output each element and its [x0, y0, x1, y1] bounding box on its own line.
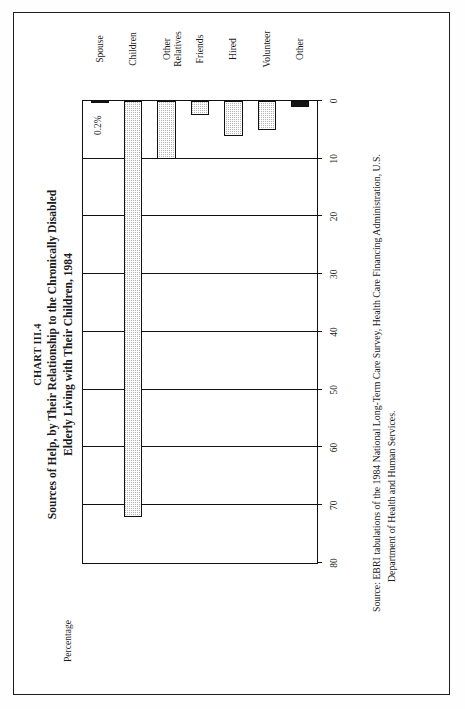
bar-hired: [224, 101, 242, 136]
category-label-volunteer: Volunteer: [261, 4, 272, 94]
axis-tick-label-10: 10: [329, 147, 339, 171]
gridline-40: [83, 331, 317, 332]
axis-tick-label-60: 60: [329, 436, 339, 460]
bar-other-relatives: [157, 101, 175, 159]
chart-title-line-1: Sources of Help, by Their Relationship t…: [45, 13, 61, 696]
gridline-20: [83, 216, 317, 217]
axis-tick-0: [317, 100, 322, 101]
source-lead: Source:: [371, 582, 382, 612]
gridline-10: [83, 158, 317, 159]
axis-tick-label-30: 30: [329, 262, 339, 286]
axis-tick-label-40: 40: [329, 320, 339, 344]
bar-other: [291, 101, 309, 107]
gridline-60: [83, 447, 317, 448]
chart-title-line-2: Elderly Living with Their Children, 1984: [61, 13, 77, 696]
axis-tick-20: [317, 216, 322, 217]
data-label-spouse: 0.2%: [93, 115, 103, 135]
source-note: Source: EBRI tabulations of the 1984 Nat…: [370, 72, 399, 612]
bar-children: [124, 101, 142, 517]
axis-tick-label-50: 50: [329, 378, 339, 402]
category-label-spouse: Spouse: [94, 4, 105, 94]
category-label-hired: Hired: [227, 4, 238, 94]
gridline-30: [83, 273, 317, 274]
chart-number: CHART III.4: [30, 13, 45, 696]
bar-volunteer: [258, 101, 276, 130]
gridline-50: [83, 389, 317, 390]
bar-friends: [191, 101, 209, 115]
category-label-children: Children: [127, 4, 138, 94]
axis-tick-label-20: 20: [329, 205, 339, 229]
gridline-70: [83, 504, 317, 505]
axis-tick-label-80: 80: [329, 551, 339, 575]
axis-tick-50: [317, 389, 322, 390]
source-line-2: Department of Health and Human Services.: [385, 72, 400, 612]
scanned-page: CHART III.4 Sources of Help, by Their Re…: [0, 0, 465, 709]
plot-area: Percentage 01020304050607080Spouse0.2%Ch…: [82, 100, 350, 600]
plot-frame: 01020304050607080Spouse0.2%ChildrenOther…: [82, 100, 318, 564]
rotated-chart-stage: CHART III.4 Sources of Help, by Their Re…: [14, 13, 451, 696]
source-line-1: EBRI tabulations of the 1984 National Lo…: [371, 154, 382, 580]
axis-tick-30: [317, 273, 322, 274]
axis-tick-40: [317, 331, 322, 332]
axis-tick-60: [317, 447, 322, 448]
category-label-other-relatives: Other Relatives: [161, 4, 183, 94]
category-label-friends: Friends: [194, 4, 205, 94]
axis-tick-label-70: 70: [329, 493, 339, 517]
axis-tick-10: [317, 158, 322, 159]
axis-tick-80: [317, 562, 322, 563]
category-label-other: Other: [294, 4, 305, 94]
title-block: CHART III.4 Sources of Help, by Their Re…: [30, 13, 77, 696]
axis-tick-label-0: 0: [329, 89, 339, 113]
bar-spouse: [91, 101, 109, 103]
y-axis-label: Percentage: [62, 620, 73, 662]
axis-tick-70: [317, 504, 322, 505]
